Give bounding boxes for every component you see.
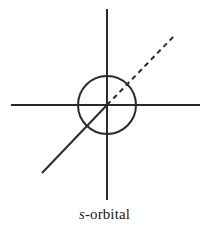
orbital-diagram-canvas xyxy=(0,0,209,236)
s-orbital-figure: s-orbital xyxy=(0,0,209,236)
figure-caption: s-orbital xyxy=(0,205,209,223)
orbital-caption-remainder: -orbital xyxy=(85,206,130,222)
z-axis-dashed-line xyxy=(107,34,176,105)
z-axis-solid-line xyxy=(42,105,107,173)
